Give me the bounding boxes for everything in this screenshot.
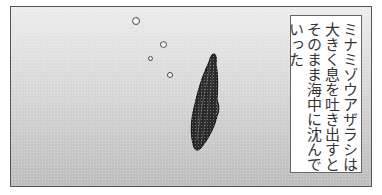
caption-line-4: いった [286, 22, 303, 172]
air-bubble-1 [132, 17, 140, 25]
elephant-seal-illustration [187, 52, 227, 152]
caption-line-1: ミナミゾウアザラシは [340, 22, 357, 172]
air-bubble-4 [167, 72, 173, 78]
caption-line-2: 大きく息を吐き出すと [322, 22, 339, 172]
caption-box: ミナミゾウアザラシは 大きく息を吐き出すと そのまま海中に沈んで いった [290, 15, 362, 173]
air-bubble-3 [148, 56, 153, 61]
air-bubble-2 [160, 41, 167, 48]
caption-line-3: そのまま海中に沈んで [304, 22, 321, 172]
